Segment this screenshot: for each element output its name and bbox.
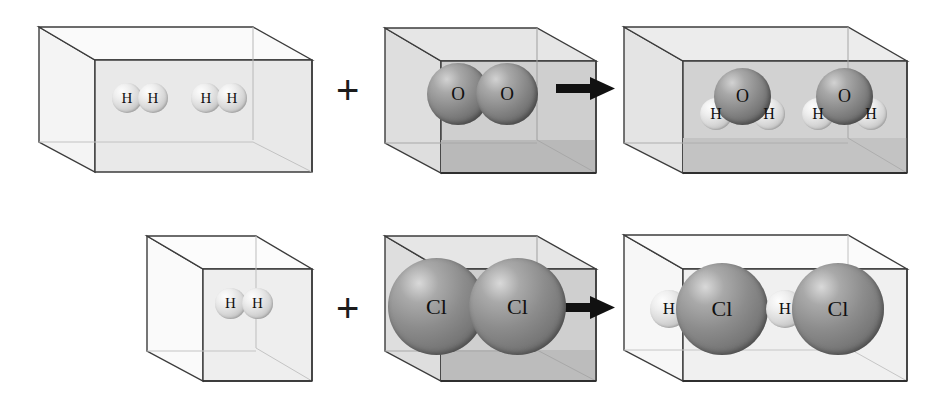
reaction-row-hydrogen-chloride: + [0,203,938,403]
arrow-right-icon [556,76,616,102]
container-product-hydrogen-chloride [615,226,925,388]
container-reactant-hydrogen-small [140,228,320,393]
plus-operator: + [336,70,359,110]
plus-operator: + [336,288,359,328]
reaction-diagram: + [0,0,938,403]
container-reactant-hydrogen [30,20,322,180]
arrow-right-icon [556,295,616,321]
container-product-water [615,20,925,182]
reaction-row-water: + [0,0,938,200]
container-reactant-oxygen [375,20,605,185]
